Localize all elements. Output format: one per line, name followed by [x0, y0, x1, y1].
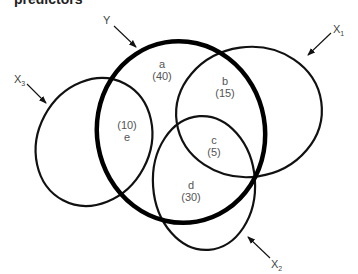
label-x3: X3 — [14, 73, 25, 87]
arrow-x2 — [248, 237, 270, 258]
label-x1: X1 — [333, 23, 344, 37]
region-e-value: (10) — [117, 119, 137, 131]
set-x3-ellipse — [14, 57, 175, 226]
region-c-letter: c — [211, 134, 217, 146]
region-d-letter: d — [188, 179, 194, 191]
set-y-ellipse — [82, 28, 279, 236]
region-c-value: (5) — [207, 146, 220, 158]
set-x1-ellipse — [168, 37, 331, 186]
label-x2: X2 — [271, 258, 282, 272]
arrow-x1 — [308, 33, 331, 55]
label-y: Y — [103, 14, 111, 26]
arrow-y — [114, 26, 136, 47]
set-x2-ellipse — [148, 113, 259, 254]
arrow-x3 — [27, 84, 46, 103]
region-d-value: (30) — [181, 191, 201, 203]
venn-diagram: Y X1 X3 X2 a (40) b (15) c (5) d (30) (1… — [0, 0, 358, 274]
region-b-letter: b — [222, 75, 228, 87]
region-e-letter: e — [124, 131, 130, 143]
region-a-value: (40) — [152, 70, 172, 82]
region-b-value: (15) — [215, 87, 235, 99]
region-a-letter: a — [159, 58, 166, 70]
